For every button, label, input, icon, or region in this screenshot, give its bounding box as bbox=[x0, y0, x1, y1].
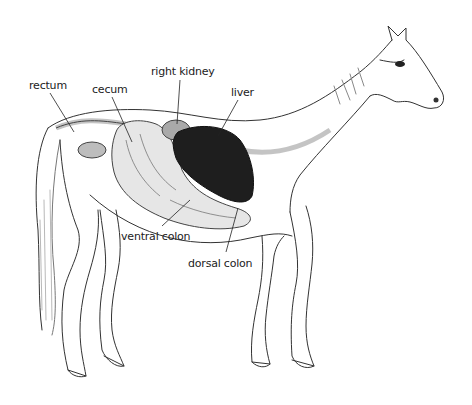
label-cecum: cecum bbox=[92, 83, 128, 96]
horse-illustration bbox=[0, 0, 472, 405]
label-rectum: rectum bbox=[29, 79, 67, 92]
label-right-kidney: right kidney bbox=[151, 65, 215, 78]
label-liver: liver bbox=[231, 86, 254, 99]
rectum-organ bbox=[78, 142, 106, 158]
horse-anatomy-diagram: rectum cecum right kidney liver ventral … bbox=[0, 0, 472, 405]
label-dorsal-colon: dorsal colon bbox=[188, 257, 252, 270]
eye-icon bbox=[395, 61, 405, 67]
label-ventral-colon: ventral colon bbox=[121, 230, 190, 243]
